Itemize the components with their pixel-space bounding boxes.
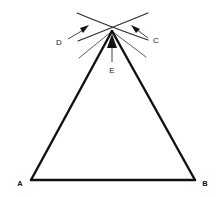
label-c: C <box>153 36 159 45</box>
label-b: B <box>202 179 208 188</box>
triangle-construction-svg: D C E A B <box>0 0 218 197</box>
label-a: A <box>17 179 23 188</box>
geometry-figure: D C E A B <box>0 0 218 197</box>
label-d: D <box>56 38 62 47</box>
figure-background <box>0 0 218 197</box>
label-e: E <box>109 66 114 75</box>
